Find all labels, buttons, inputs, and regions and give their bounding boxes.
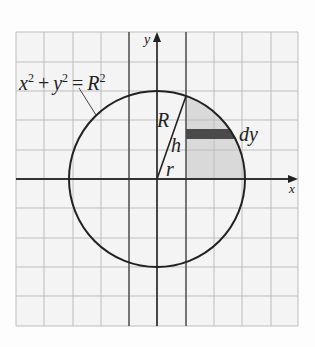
radius-label-R: R [156, 109, 169, 131]
height-label-h: h [171, 134, 181, 156]
x-axis-label: x [288, 181, 295, 196]
circle-grid-diagram: y x x2+y2=R2 R h r dy [0, 0, 315, 347]
strip-label-dy: dy [239, 123, 258, 146]
distance-label-r: r [166, 158, 174, 180]
y-axis-label: y [142, 32, 151, 47]
diagram-canvas: y x x2+y2=R2 R h r dy [0, 0, 315, 347]
